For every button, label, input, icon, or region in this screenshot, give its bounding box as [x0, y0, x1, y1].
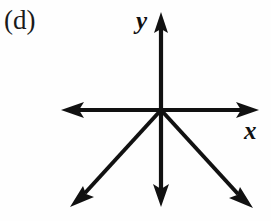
- down-right-diagonal-shaft: [161, 110, 238, 194]
- x-axis-label: x: [244, 118, 257, 143]
- down-left-diagonal-shaft: [85, 110, 161, 193]
- ray-negative-x-axis: [61, 102, 161, 118]
- ray-down-left-diagonal: [70, 110, 161, 207]
- ray-negative-y-axis: [153, 110, 169, 207]
- y-axis-label: y: [136, 8, 147, 33]
- ray-positive-x-axis: [161, 102, 259, 118]
- ray-positive-y-axis: [154, 12, 168, 110]
- ray-down-right-diagonal: [161, 110, 253, 208]
- vector-diagram-figure: (d) y x: [0, 0, 271, 221]
